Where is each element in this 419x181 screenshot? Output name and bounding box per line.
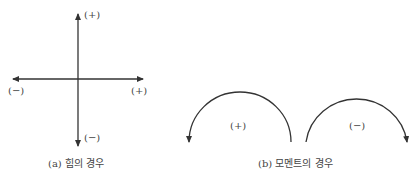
label-up-positive: (+) [84,9,100,20]
diagram-canvas [0,0,419,181]
moment-arc-positive [189,92,291,142]
caption-b: (b) 모멘트의 경우 [258,155,333,170]
label-left-negative: (−) [8,85,24,96]
label-right-positive: (+) [131,85,147,96]
arc-label-positive: (+) [230,120,246,131]
caption-a: (a) 힘의 경우 [48,155,104,170]
force-axes [13,14,143,146]
label-down-negative: (−) [84,132,100,143]
arc-label-negative: (−) [349,120,365,131]
